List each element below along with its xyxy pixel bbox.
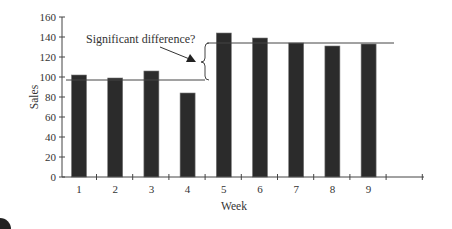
bar-week-6	[253, 38, 268, 177]
annotation-text: Significant difference?	[86, 32, 195, 46]
brace-icon	[201, 43, 209, 80]
x-tick-label: 2	[112, 183, 118, 195]
x-tick-label: 5	[221, 183, 227, 195]
arrow-line	[160, 47, 192, 60]
y-tick-label: 140	[40, 31, 57, 43]
x-tick-label: 8	[330, 183, 336, 195]
bars	[72, 33, 377, 177]
x-tick-label: 6	[257, 183, 263, 195]
bar-week-8	[325, 46, 340, 177]
bar-week-5	[216, 33, 231, 177]
bar-week-3	[144, 71, 159, 177]
x-tick-label: 3	[149, 183, 155, 195]
bar-week-9	[361, 44, 376, 177]
y-tick-label: 40	[45, 131, 57, 143]
x-axis-label: Week	[221, 200, 247, 212]
x-tick-label: 7	[293, 183, 299, 195]
y-tick-label: 20	[45, 151, 57, 163]
y-tick-label: 0	[51, 171, 57, 183]
y-tick-label: 60	[45, 111, 57, 123]
y-axis-label: Sales	[28, 84, 40, 109]
y-tick-label: 160	[40, 11, 57, 23]
bar-week-2	[108, 78, 123, 177]
y-ticks: 020406080100120140160	[40, 11, 66, 183]
page-marker-icon	[0, 218, 11, 229]
bar-chart: 020406080100120140160 123456789 Signific…	[0, 0, 452, 229]
bar-week-7	[289, 43, 304, 177]
x-tick-label: 1	[76, 183, 82, 195]
y-tick-label: 100	[40, 71, 57, 83]
y-tick-label: 120	[40, 51, 57, 63]
y-tick-label: 80	[45, 91, 57, 103]
bar-week-4	[180, 93, 195, 177]
bar-week-1	[72, 75, 87, 177]
x-tick-label: 9	[366, 183, 372, 195]
x-tick-label: 4	[185, 183, 191, 195]
